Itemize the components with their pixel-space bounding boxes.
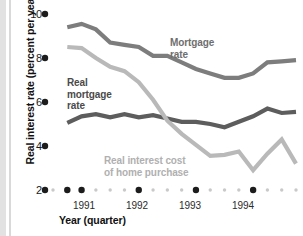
x-tick-dot-minor <box>237 188 240 191</box>
annotation-real-mortgage-rate-line3: rate <box>67 100 112 112</box>
annotation-mortgage-rate-line1: Mortgage <box>170 37 214 49</box>
x-tick-dot-minor <box>223 188 226 191</box>
annotation-real-interest-cost: Real interest cost of home purchase <box>104 155 189 178</box>
chart-container: Real interest rate (percent per year) 10… <box>0 0 303 236</box>
annotation-real-interest-cost-line1: Real interest cost <box>104 155 189 167</box>
x-tick-dot-major <box>78 187 84 193</box>
x-tick-dot-minor <box>209 188 212 191</box>
x-tick-dot-major <box>136 187 142 193</box>
annotation-mortgage-rate: Mortgage rate <box>170 37 214 60</box>
x-tick-dot-minor <box>266 188 269 191</box>
x-tick-dot-minor <box>294 188 297 191</box>
y-tick-dot-8 <box>42 55 48 61</box>
x-tick-dot-minor <box>151 188 154 191</box>
x-tick-dot-major <box>193 187 199 193</box>
x-tick-dot-minor <box>280 188 283 191</box>
x-tick-dot-minor <box>180 188 183 191</box>
x-tick-dot-minor <box>123 188 126 191</box>
annotation-real-mortgage-rate-line2: mortgage <box>67 89 112 101</box>
x-axis-label: Year (quarter) <box>59 214 126 226</box>
y-tick-dot-10 <box>42 11 48 17</box>
x-tick-label-1993: 1993 <box>170 200 210 211</box>
annotation-mortgage-rate-line2: rate <box>170 49 214 61</box>
x-tick-label-1992: 1992 <box>117 200 157 211</box>
annotation-real-mortgage-rate-line1: Real <box>67 77 112 89</box>
y-tick-dot-6 <box>42 99 48 105</box>
annotation-real-interest-cost-line2: of home purchase <box>104 167 189 179</box>
annotation-real-mortgage-rate: Real mortgage rate <box>67 77 112 112</box>
x-tick-dot-minor <box>94 188 97 191</box>
x-tick-label-1994: 1994 <box>223 200 263 211</box>
x-tick-label-1991: 1991 <box>64 200 104 211</box>
x-tick-dot-major <box>64 187 70 193</box>
x-tick-dot-minor <box>108 188 111 191</box>
y-tick-dot-2 <box>42 187 48 193</box>
y-tick-dot-4 <box>42 143 48 149</box>
x-tick-dot-major <box>250 187 256 193</box>
x-tick-dot-minor <box>166 188 169 191</box>
x-tick-dot-minor <box>51 188 54 191</box>
